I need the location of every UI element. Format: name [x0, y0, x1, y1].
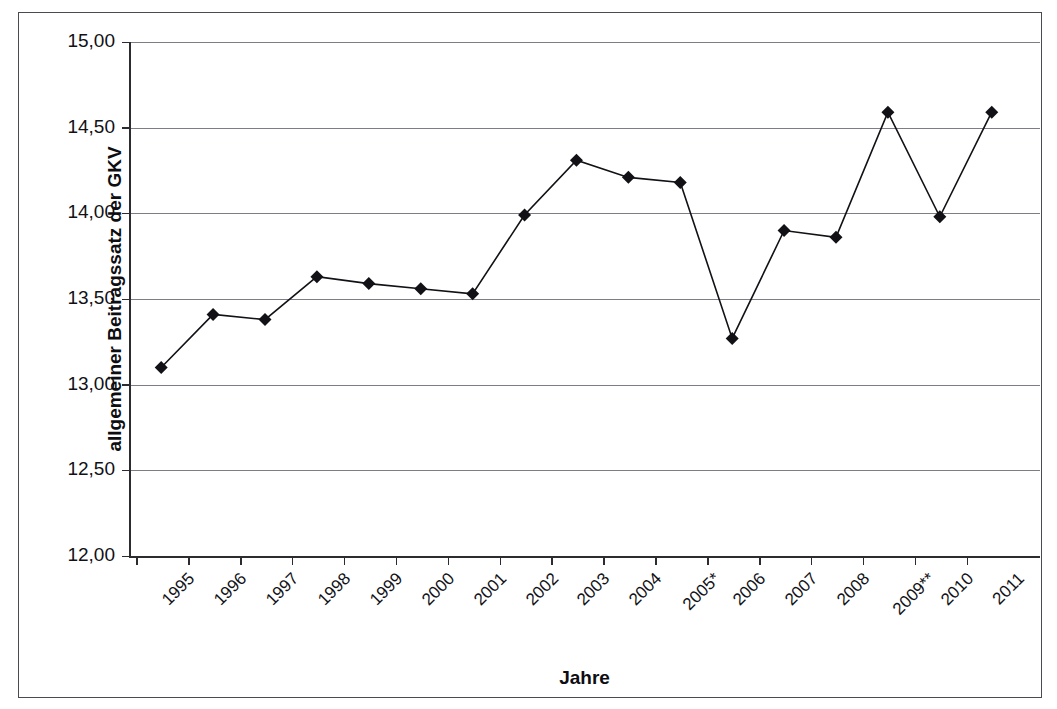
data-point-marker [881, 106, 894, 119]
x-axis-tick-label: 1997 [262, 569, 303, 610]
x-axis-tick-mark [603, 557, 605, 565]
data-point-marker [466, 287, 479, 300]
x-axis-tick-label: 2003 [574, 569, 615, 610]
data-point-marker [829, 231, 842, 244]
x-axis-tick-mark [811, 557, 813, 565]
x-axis-tick-label: 2002 [522, 569, 563, 610]
x-axis-tick-mark [759, 557, 761, 565]
x-axis-tick-mark [863, 557, 865, 565]
x-axis-tick-label: 1996 [210, 569, 251, 610]
x-axis-tick-label: 2011 [988, 569, 1028, 609]
x-axis-tick-mark [240, 557, 242, 565]
x-axis-tick-mark [707, 557, 709, 565]
x-axis-line [129, 556, 1040, 558]
x-axis-tick-mark [396, 557, 398, 565]
chart-frame: 15,0014,5014,0013,5013,0012,5012,00 1995… [18, 12, 1042, 698]
x-axis-tick-label: 2008 [833, 569, 874, 610]
x-axis-tick-label: 1998 [314, 569, 355, 610]
x-axis-tick-mark [292, 557, 294, 565]
x-axis-tick-label: 2004 [625, 569, 666, 610]
x-axis-tick-mark [136, 557, 138, 565]
data-point-marker [778, 224, 791, 237]
x-axis-tick-mark [967, 557, 969, 565]
data-point-marker [362, 277, 375, 290]
x-axis-tick-mark [500, 557, 502, 565]
x-axis-tick-label: 2009** [889, 569, 939, 619]
x-axis-tick-mark [915, 557, 917, 565]
data-point-marker [985, 106, 998, 119]
data-point-marker [674, 176, 687, 189]
plot-inner: 15,0014,5014,0013,5013,0012,5012,00 1995… [129, 42, 1040, 556]
series-polyline [161, 112, 992, 367]
x-axis-tick-mark [344, 557, 346, 565]
x-axis-tick-label: 2005* [679, 569, 725, 615]
x-axis-tick-label: 1995 [158, 569, 199, 610]
x-axis-tick-label: 2007 [781, 569, 822, 610]
x-axis-tick-label: 2001 [470, 569, 511, 610]
x-axis-tick-label: 1999 [366, 569, 407, 610]
x-axis-tick-label: 2010 [937, 569, 978, 610]
y-axis-title: allgemeiner Beitragssatz der GKV [101, 42, 129, 556]
data-point-marker [726, 332, 739, 345]
x-axis-tick-mark [188, 557, 190, 565]
series-markers [155, 106, 999, 374]
x-axis-tick-label: 2000 [418, 569, 459, 610]
x-axis-tick-label: 2006 [729, 569, 770, 610]
data-point-marker [933, 210, 946, 223]
x-axis-tick-mark [655, 557, 657, 565]
data-series-line [129, 42, 1040, 556]
x-axis-tick-mark [551, 557, 553, 565]
x-axis-title: Jahre [129, 667, 1040, 689]
plot-area: 15,0014,5014,0013,5013,0012,5012,00 1995… [129, 42, 1049, 556]
data-point-marker [622, 171, 635, 184]
data-point-marker [414, 282, 427, 295]
x-axis-tick-mark [448, 557, 450, 565]
